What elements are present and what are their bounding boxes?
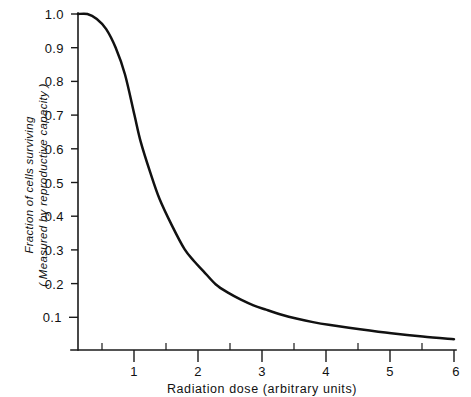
survival-curve-line bbox=[78, 14, 454, 340]
y-axis-ticks bbox=[69, 14, 78, 317]
x-tick-label: 5 bbox=[386, 364, 394, 379]
chart-canvas: 1.0 0.9 0.8 0.7 0.6 0.5 0.4 0.3 0.2 0.1 bbox=[0, 0, 471, 397]
x-axis-title: Radiation dose (arbitrary units) bbox=[167, 382, 357, 396]
y-tick-label: 1.0 bbox=[45, 7, 64, 22]
x-axis-ticks-major bbox=[134, 350, 454, 362]
y-tick-label: 0.9 bbox=[45, 41, 64, 56]
x-tick-label: 4 bbox=[322, 364, 330, 379]
x-tick-label: 6 bbox=[452, 364, 460, 379]
x-axis-tick-labels: 1 2 3 4 5 6 bbox=[130, 364, 460, 379]
y-axis-title-line1: Fraction of cells surviving bbox=[23, 116, 35, 254]
y-axis-title-line2: ( Measured by reproductive capacity ) bbox=[37, 83, 49, 287]
x-axis-ticks-minor bbox=[102, 343, 422, 350]
y-tick-label: 0.1 bbox=[43, 310, 62, 325]
axis-lines bbox=[71, 13, 456, 350]
x-tick-label: 1 bbox=[130, 364, 138, 379]
survival-curve-figure: 1.0 0.9 0.8 0.7 0.6 0.5 0.4 0.3 0.2 0.1 bbox=[0, 0, 471, 397]
x-tick-label: 2 bbox=[194, 364, 202, 379]
x-tick-label: 3 bbox=[258, 364, 266, 379]
